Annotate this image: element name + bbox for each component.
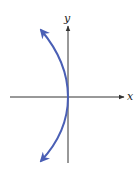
y-axis-label: y	[63, 12, 71, 25]
parabola-curve	[41, 30, 68, 161]
x-axis-label: x	[127, 90, 134, 103]
coordinate-diagram: x y	[0, 0, 137, 174]
